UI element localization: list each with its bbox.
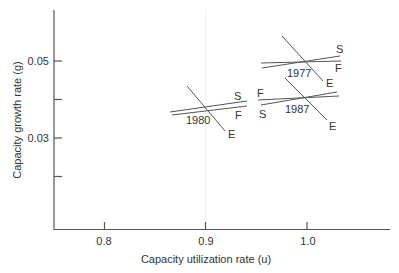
label-f-1980: F: [235, 109, 242, 121]
label-e-1987: E: [329, 120, 336, 132]
label-e-1980: E: [228, 128, 235, 140]
x-tick-label-0.8: 0.8: [96, 235, 111, 247]
x-tick-label-0.9: 0.9: [198, 235, 213, 247]
label-year-1977: 1977: [287, 67, 311, 79]
label-f-1977: F: [335, 62, 342, 74]
label-year-1987: 1987: [285, 103, 309, 115]
chart: 0.05 0.03 0.8 0.9 1.0 Capacity utilizati…: [0, 0, 399, 273]
label-s-1977: S: [336, 43, 343, 55]
line-f-1987: [258, 96, 339, 100]
x-tick-label-1.0: 1.0: [300, 235, 315, 247]
label-year-1980: 1980: [186, 114, 210, 126]
label-s-1980: S: [234, 90, 241, 102]
y-tick-label-0.05: 0.05: [28, 55, 49, 67]
line-f-1977: [261, 61, 341, 63]
label-f-1987: F: [257, 87, 264, 99]
label-s-1987: S: [259, 108, 266, 120]
y-axis-title: Capacity growth rate (g): [11, 61, 23, 178]
label-e-1977: E: [326, 77, 333, 89]
x-axis-title: Capacity utilization rate (u): [141, 253, 271, 265]
y-tick-label-0.03: 0.03: [28, 132, 49, 144]
